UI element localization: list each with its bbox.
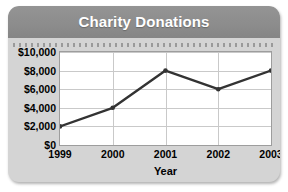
chart-card: Charity Donations $0$2,000$4,000$6,000$8…: [8, 6, 280, 182]
data-point: [163, 68, 168, 73]
data-markers: [60, 68, 271, 128]
data-line: [60, 71, 271, 127]
x-axis-tick-label: 2002: [207, 148, 230, 160]
y-axis-tick-label: $10,000: [8, 46, 56, 58]
y-axis-tick-label: $4,000: [8, 102, 56, 114]
line-chart: $0$2,000$4,000$6,000$8,000$10,000 199920…: [8, 48, 280, 182]
data-point: [216, 87, 221, 92]
x-axis-labels: 19992000200120022003: [59, 148, 272, 164]
chart-title: Charity Donations: [8, 6, 280, 38]
y-axis-tick-label: $2,000: [8, 120, 56, 132]
x-axis-tick-label: 1999: [48, 148, 71, 160]
x-axis-tick-label: 2001: [154, 148, 177, 160]
y-axis-labels: $0$2,000$4,000$6,000$8,000$10,000: [8, 48, 56, 149]
y-axis-tick-label: $6,000: [8, 83, 56, 95]
x-axis-title: Year: [59, 165, 272, 177]
data-series-svg: [60, 52, 271, 145]
chart-header-bar: Charity Donations: [8, 6, 280, 38]
data-point: [110, 106, 115, 111]
plot-area: [59, 51, 272, 146]
y-axis-tick-label: $8,000: [8, 65, 56, 77]
x-axis-tick-label: 2003: [259, 148, 280, 160]
x-axis-tick-label: 2000: [101, 148, 124, 160]
